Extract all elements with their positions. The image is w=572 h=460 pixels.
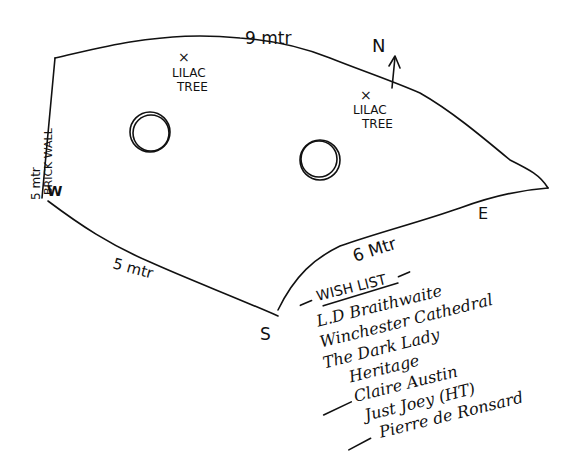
west-edge-length: 5 mtr bbox=[29, 167, 43, 200]
north-edge-length: 9 mtr bbox=[245, 28, 291, 48]
tree-label-line1: LILAC bbox=[353, 103, 387, 117]
tree-label-line1: LILAC bbox=[172, 66, 206, 80]
tree-label-line2: TREE bbox=[361, 117, 393, 131]
compass-west-mark: W bbox=[47, 183, 62, 199]
wishlist: WISH LIST L.D Braithwaite Winchester Cat… bbox=[293, 246, 525, 454]
tree-marker: × bbox=[360, 87, 372, 103]
wishlist-dash bbox=[322, 402, 353, 415]
wishlist-dash bbox=[347, 438, 372, 450]
sketch-labels: 9 mtr N × LILAC TREE × LILAC TREE 5 mtr … bbox=[0, 0, 572, 460]
compass-south-label: S bbox=[260, 324, 271, 344]
southwest-edge-length: 5 mtr bbox=[111, 254, 156, 282]
compass-east-label: E bbox=[478, 204, 488, 223]
wishlist-dash-left bbox=[300, 300, 312, 305]
tree-marker: × bbox=[178, 49, 190, 65]
wishlist-dash-right bbox=[398, 272, 410, 277]
southeast-edge-length: 6 Mtr bbox=[350, 233, 399, 266]
compass-north-label: N bbox=[372, 35, 385, 56]
tree-label-line2: TREE bbox=[176, 80, 208, 94]
